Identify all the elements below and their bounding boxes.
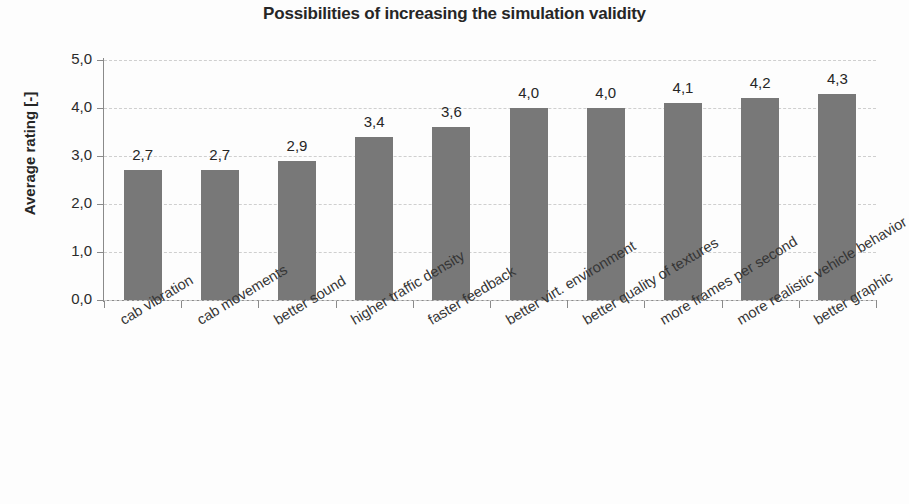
bar-value-label: 4,0 — [499, 84, 559, 101]
chart-title: Possibilities of increasing the simulati… — [0, 4, 909, 24]
bar-value-label: 4,2 — [730, 74, 790, 91]
chart-screenshot: Possibilities of increasing the simulati… — [0, 0, 909, 504]
x-tick-mark — [876, 300, 877, 308]
bar-value-label: 4,3 — [807, 70, 867, 87]
bar-value-label: 2,7 — [113, 146, 173, 163]
y-axis-title: Average rating [-] — [21, 59, 38, 249]
x-tick-mark — [799, 300, 800, 308]
y-tick-label: 2,0 — [58, 194, 92, 211]
bar-value-label: 2,7 — [190, 146, 250, 163]
x-tick-mark — [490, 300, 491, 308]
x-tick-mark — [104, 300, 105, 308]
x-tick-mark — [722, 300, 723, 308]
bar-value-label: 3,6 — [421, 103, 481, 120]
y-tick-label: 4,0 — [58, 98, 92, 115]
bar-value-label: 4,0 — [576, 84, 636, 101]
gridline — [104, 60, 876, 61]
x-tick-mark — [336, 300, 337, 308]
x-tick-mark — [567, 300, 568, 308]
y-tick-label: 5,0 — [58, 50, 92, 67]
y-tick-label: 0,0 — [58, 290, 92, 307]
x-tick-mark — [258, 300, 259, 308]
x-tick-mark — [181, 300, 182, 308]
x-tick-mark — [644, 300, 645, 308]
bar-value-label: 3,4 — [344, 113, 404, 130]
y-tick-label: 1,0 — [58, 242, 92, 259]
bar — [201, 170, 239, 300]
bar — [355, 137, 393, 300]
y-tick-label: 3,0 — [58, 146, 92, 163]
bar — [124, 170, 162, 300]
bar — [278, 161, 316, 300]
x-tick-mark — [413, 300, 414, 308]
bar-value-label: 4,1 — [653, 79, 713, 96]
bar-value-label: 2,9 — [267, 137, 327, 154]
